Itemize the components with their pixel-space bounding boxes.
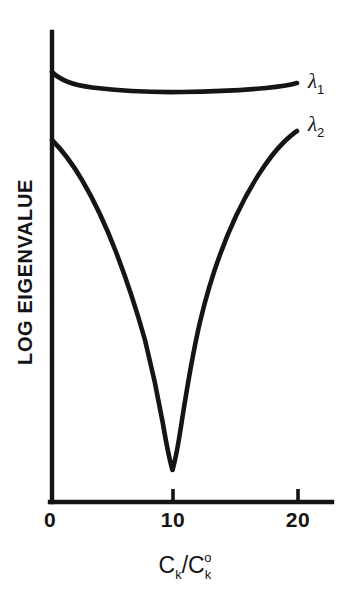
y-axis-title: LOG EIGENVALUE [14, 179, 36, 365]
data-curves-group [52, 72, 297, 470]
series-label-lambda2-sub: 2 [317, 125, 324, 140]
curve-lambda2 [52, 131, 297, 470]
series-label-lambda1: λ1 [307, 69, 324, 97]
x-axis-title-group: Ck/Cko [159, 550, 212, 582]
y-axis-title-group: LOG EIGENVALUE [14, 179, 36, 365]
x-tick-label-0: 0 [44, 508, 56, 531]
series-label-lambda2-base: λ [307, 112, 317, 136]
series-label-lambda2: λ2 [307, 112, 324, 140]
series-label-lambda1-base: λ [307, 69, 317, 93]
x-axis-title: Ck/Cko [159, 550, 212, 582]
x-tick-label-10: 10 [161, 508, 185, 531]
x-tick-label-20: 20 [286, 508, 310, 531]
curve-lambda1 [52, 72, 297, 92]
x-axis-title-denominator-sup: o [204, 550, 211, 565]
x-axis-title-numerator: C [159, 552, 176, 578]
series-label-lambda1-sub: 1 [317, 82, 324, 97]
series-labels-group: λ1 λ2 [307, 69, 324, 140]
x-axis-title-denominator-sub: k [205, 567, 212, 582]
figure-container: 0 10 20 LOG EIGENVALUE Ck/Cko λ1 [0, 0, 364, 602]
axes-group [50, 32, 332, 502]
x-axis-title-denominator: C [188, 552, 205, 578]
eigenvalue-line-chart: 0 10 20 LOG EIGENVALUE Ck/Cko λ1 [0, 0, 364, 602]
x-axis-tick-labels: 0 10 20 [44, 508, 310, 531]
